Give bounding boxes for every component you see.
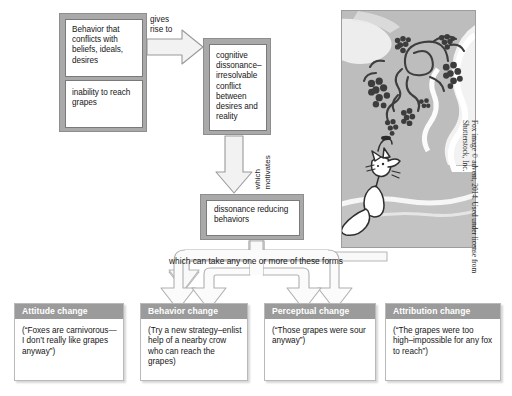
outcome-box-perceptual-change: Perceptual change (“Those grapes were so… xyxy=(264,303,376,381)
dissonance-reducing-behaviors-inner: dissonance reducing behaviors xyxy=(206,200,300,236)
cognitive-dissonance-inner: cognitive dissonance–irresolvable confli… xyxy=(209,44,267,131)
dissonance-reducing-behaviors-text: dissonance reducing behaviors xyxy=(214,205,288,224)
outcome-heading: Attitude change xyxy=(15,304,123,319)
which-motivates-line-2: motivates xyxy=(263,155,272,189)
outcome-example: (“Foxes are carnivorous—I don’t really l… xyxy=(15,319,123,357)
gives-rise-to-line-1: gives xyxy=(150,15,202,25)
antecedent-general-text: Behavior that conflicts with beliefs, id… xyxy=(72,25,123,65)
dissonance-reducing-behaviors-box: dissonance reducing behaviors xyxy=(200,194,304,240)
antecedent-example-text: inability to reach grapes xyxy=(72,88,130,107)
outcome-box-attribution-change: Attribution change (“The grapes were too… xyxy=(385,303,501,381)
cognitive-dissonance-box: cognitive dissonance–irresolvable confli… xyxy=(203,38,271,135)
cognitive-dissonance-text: cognitive dissonance–irresolvable confli… xyxy=(216,51,261,121)
outcome-example: (“The grapes were too high–impossible fo… xyxy=(386,319,500,357)
outcome-heading: Attribution change xyxy=(386,304,500,319)
which-motivates-line-1: which xyxy=(253,169,262,189)
photo-credit-line-2: Shutterstock, Inc. xyxy=(461,120,470,250)
outcome-box-behavior-change: Behavior change (Try a new strategy–enli… xyxy=(140,303,248,381)
photo-credit-line-1: Fox image © advent, 2014. Used under lic… xyxy=(470,120,479,273)
outcome-example: (“Those grapes were sour anyway”) xyxy=(265,319,375,347)
photo-credit: Fox image © advent, 2014. Used under lic… xyxy=(455,120,479,250)
outcome-heading: Behavior change xyxy=(141,304,247,319)
forms-banner-label: which can take any one or more of these … xyxy=(120,256,392,266)
antecedent-general-box: Behavior that conflicts with beliefs, id… xyxy=(65,19,143,77)
gives-rise-to-label: gives rise to xyxy=(150,15,202,35)
antecedent-conditions-group: Behavior that conflicts with beliefs, id… xyxy=(59,13,147,132)
outcome-box-attitude-change: Attitude change (“Foxes are carnivorous—… xyxy=(14,303,124,381)
antecedent-example-box: inability to reach grapes xyxy=(65,80,143,128)
which-motivates-label: which motivates xyxy=(239,143,291,191)
arrow-gives-rise-to xyxy=(147,30,203,64)
outcome-heading: Perceptual change xyxy=(265,304,375,319)
gives-rise-to-line-2: rise to xyxy=(150,25,202,35)
diagram-canvas: Behavior that conflicts with beliefs, id… xyxy=(0,0,512,396)
outcome-example: (Try a new strategy–enlist help of a nea… xyxy=(141,319,247,368)
